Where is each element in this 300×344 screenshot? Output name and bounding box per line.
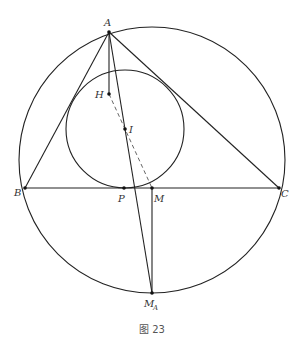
label-H: H	[94, 89, 104, 100]
point-I	[123, 127, 127, 131]
point-M	[150, 186, 154, 190]
label-B: B	[13, 187, 21, 198]
point-A	[107, 30, 111, 34]
segment-AB	[25, 32, 109, 188]
label-C: C	[281, 188, 289, 199]
figure-caption: 图 23	[139, 324, 165, 335]
label-P: P	[117, 193, 125, 204]
geometry-diagram: A B C H I P M M A 图 23	[0, 0, 300, 344]
point-MA	[150, 291, 154, 295]
label-M: M	[153, 193, 165, 204]
label-A: A	[103, 17, 111, 28]
segment-AC	[109, 32, 279, 188]
label-MA-subscript: A	[152, 304, 158, 312]
point-H	[107, 92, 111, 96]
label-I: I	[128, 124, 134, 135]
segment-AMA	[109, 32, 152, 293]
point-P	[122, 186, 126, 190]
segment-HM-dashed	[109, 94, 152, 188]
point-B	[23, 186, 27, 190]
